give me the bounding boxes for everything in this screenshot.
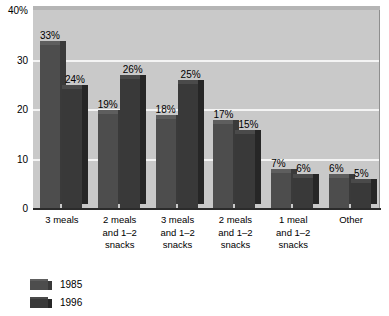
bar-chart: 40%3020100 33%19%18%17%7%6%24%26%25%15%6… xyxy=(0,0,389,316)
category-label: 3 meals xyxy=(33,214,91,227)
y-axis: 40%3020100 xyxy=(0,0,33,230)
bar-value-label: 24% xyxy=(65,74,85,85)
bar-value-label: 6% xyxy=(296,163,310,174)
bar xyxy=(351,183,371,208)
legend-label-1996: 1996 xyxy=(60,296,82,310)
bar xyxy=(178,84,198,208)
cut-off-title xyxy=(120,0,280,5)
bar-value-label: 15% xyxy=(238,119,258,130)
category-label: 2 mealsand 1–2snacks xyxy=(207,214,265,252)
y-tick-label: 0 xyxy=(22,203,28,214)
legend-swatch-1996 xyxy=(30,297,52,308)
bar xyxy=(213,124,233,208)
x-axis-baseline xyxy=(33,208,381,210)
bar xyxy=(62,89,82,208)
bar-value-label: 25% xyxy=(181,69,201,80)
bar xyxy=(98,114,118,208)
y-tick-label: 30 xyxy=(17,54,28,65)
bar-value-label: 5% xyxy=(354,168,368,179)
y-tick-label: 40% xyxy=(8,5,28,16)
bar xyxy=(156,119,176,208)
bar xyxy=(271,173,291,208)
bar-value-label: 33% xyxy=(40,30,60,41)
category-label: 1 mealand 1–2snacks xyxy=(264,214,322,252)
y-tick-label: 10 xyxy=(17,153,28,164)
bar-value-label: 17% xyxy=(213,109,233,120)
category-label: 2 mealsand 1–2snacks xyxy=(91,214,149,252)
bar xyxy=(40,45,60,208)
bar xyxy=(235,134,255,208)
bar-value-label: 18% xyxy=(156,104,176,115)
bars-layer: 33%19%18%17%7%6%24%26%25%15%6%5% xyxy=(33,10,380,208)
bar-value-label: 26% xyxy=(123,64,143,75)
category-label: 3 mealsand 1–2snacks xyxy=(149,214,207,252)
category-label: Other xyxy=(322,214,380,227)
bar-value-label: 19% xyxy=(98,99,118,110)
bar xyxy=(329,178,349,208)
y-tick-label: 20 xyxy=(17,104,28,115)
bar xyxy=(293,178,313,208)
bar-value-label: 7% xyxy=(271,158,285,169)
legend-swatch-1985 xyxy=(30,279,52,290)
category-labels: 3 meals2 mealsand 1–2snacks3 mealsand 1–… xyxy=(33,214,380,270)
bar xyxy=(120,79,140,208)
bar-value-label: 6% xyxy=(329,163,343,174)
legend-label-1985: 1985 xyxy=(60,278,82,292)
